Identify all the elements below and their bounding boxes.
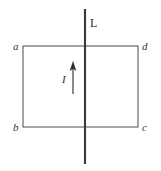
physics-diagram-figure: a d b c L I: [0, 0, 161, 171]
diagram-canvas: [0, 0, 161, 171]
vertical-line-label: L: [90, 17, 97, 29]
current-label: I: [62, 74, 66, 85]
vertex-label-c: c: [142, 122, 147, 133]
current-loop-rectangle: [23, 46, 138, 127]
vertex-label-b: b: [13, 122, 19, 133]
vertex-label-d: d: [142, 41, 148, 52]
vertex-label-a: a: [13, 41, 19, 52]
